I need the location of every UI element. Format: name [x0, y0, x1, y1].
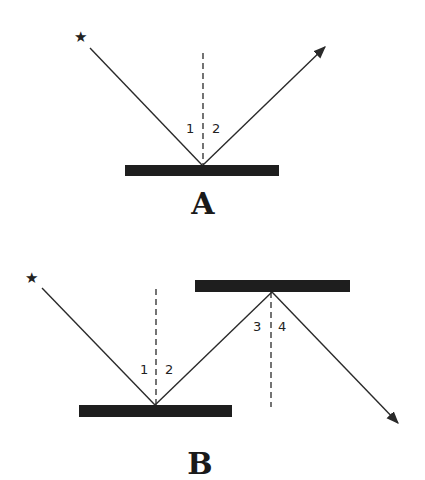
- light-source-star-icon: ★: [74, 28, 87, 46]
- panel-b: ★ 1 2 3 4 B: [25, 269, 398, 480]
- angle-label-2: 2: [212, 121, 220, 136]
- reflection-diagram: ★ 1 2 A ★ 1 2 3 4 B: [0, 0, 425, 480]
- light-source-star-icon: ★: [25, 269, 38, 287]
- angle-label-4: 4: [278, 319, 286, 334]
- incident-ray: [90, 48, 202, 165]
- angle-label-1: 1: [186, 121, 194, 136]
- panel-label-a: A: [190, 186, 215, 221]
- lower-mirror: [79, 405, 232, 417]
- panel-a: ★ 1 2 A: [74, 28, 325, 221]
- angle-label-2: 2: [165, 362, 173, 377]
- second-reflected-ray: [272, 292, 398, 423]
- incident-ray: [42, 288, 155, 405]
- first-reflected-ray: [155, 292, 272, 405]
- mirror: [125, 165, 279, 176]
- angle-label-1: 1: [140, 362, 148, 377]
- angle-label-3: 3: [253, 319, 261, 334]
- upper-mirror: [195, 280, 350, 292]
- panel-label-b: B: [187, 446, 212, 480]
- reflected-ray: [203, 47, 325, 165]
